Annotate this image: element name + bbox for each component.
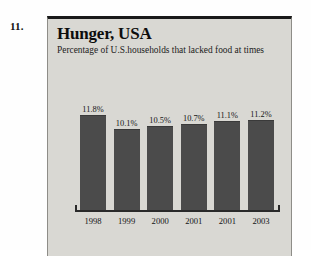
x-axis-left-tick xyxy=(75,205,77,212)
x-axis-tick-label: 2001 xyxy=(180,216,208,226)
bar-value-label: 11.2% xyxy=(250,110,271,119)
bar xyxy=(214,121,240,211)
chart-title: Hunger, USA xyxy=(57,24,282,43)
bar xyxy=(80,115,106,211)
x-axis-tick-label: 2000 xyxy=(146,216,174,226)
x-axis-labels: 199819992000200120012003 xyxy=(79,216,275,226)
x-axis-tick-label: 1999 xyxy=(113,216,141,226)
bar-value-label: 10.7% xyxy=(183,114,205,123)
x-axis-line xyxy=(75,210,279,212)
bar-value-label: 11.8% xyxy=(82,105,103,114)
bar-group: 11.8%10.1%10.5%10.7%11.1%11.2% xyxy=(79,107,275,211)
x-axis-tick-label: 2003 xyxy=(247,216,275,226)
x-axis-tick-label: 2001 xyxy=(213,216,241,226)
bar xyxy=(147,126,173,211)
bar xyxy=(248,120,274,211)
bar-column: 10.1% xyxy=(113,107,141,211)
bar xyxy=(181,124,207,211)
x-axis-right-tick xyxy=(278,205,280,212)
bar-value-label: 11.1% xyxy=(217,111,238,120)
bar xyxy=(114,129,140,211)
bar-column: 10.5% xyxy=(146,107,174,211)
chart-panel: Hunger, USA Percentage of U.S.households… xyxy=(47,16,292,256)
bar-value-label: 10.1% xyxy=(116,119,138,128)
plot-area: 11.8%10.1%10.5%10.7%11.1%11.2% 199819992… xyxy=(57,107,285,227)
chart-panel-inner: Hunger, USA Percentage of U.S.households… xyxy=(48,19,291,256)
x-axis-tick-label: 1998 xyxy=(79,216,107,226)
chart-subtitle: Percentage of U.S.households that lacked… xyxy=(57,45,282,57)
bar-column: 11.1% xyxy=(213,107,241,211)
bar-column: 11.2% xyxy=(247,107,275,211)
question-number: 11. xyxy=(10,20,24,32)
bar-value-label: 10.5% xyxy=(149,116,171,125)
bar-column: 10.7% xyxy=(180,107,208,211)
bar-column: 11.8% xyxy=(79,107,107,211)
